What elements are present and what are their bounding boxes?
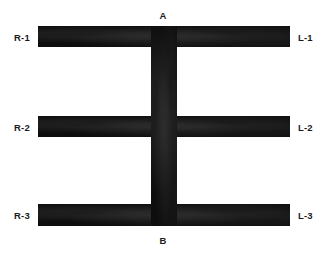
label-l-1: L-1 [298, 33, 313, 43]
label-l-3: L-3 [298, 211, 313, 221]
label-b: B [0, 236, 326, 246]
label-r-1: R-1 [14, 33, 30, 43]
label-a: A [0, 11, 326, 21]
vertical-stem-bar [151, 26, 177, 226]
label-r-2: R-2 [14, 123, 30, 133]
label-l-2: L-2 [298, 123, 313, 133]
label-r-3: R-3 [14, 211, 30, 221]
figure-canvas: A B R-1 R-2 R-3 L-1 L-2 L-3 [0, 0, 326, 258]
